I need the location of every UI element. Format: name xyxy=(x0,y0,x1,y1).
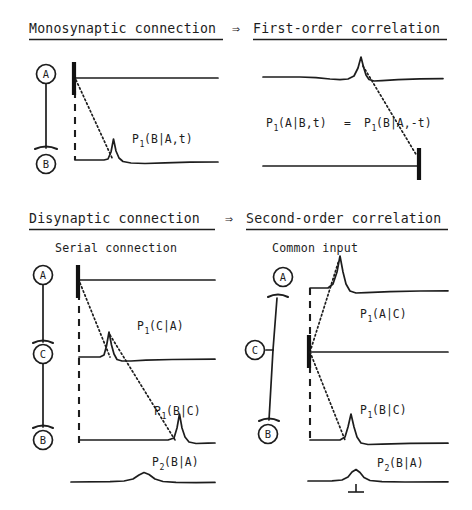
label-p1-c-given-a: P 1 (C|A) xyxy=(137,319,184,336)
circuit-common-input: A C B xyxy=(246,268,293,444)
trace-response-a-right xyxy=(263,57,443,81)
neuron-label-b-serial: B xyxy=(40,434,46,446)
projection-dotted-6 xyxy=(310,352,345,440)
equation-rhs-base: P xyxy=(364,116,371,130)
trace-response-b-common xyxy=(310,414,448,445)
projection-dotted-1 xyxy=(76,80,113,160)
diagram-canvas: Monosynaptic connection ⇒ First-order co… xyxy=(0,0,472,510)
neuron-label-c-common: C xyxy=(252,344,258,356)
trace-second-order-serial xyxy=(71,473,215,483)
neuron-label-a-serial: A xyxy=(40,269,47,281)
axon-c-to-b xyxy=(269,350,273,420)
label-p2-b-given-a-serial-rest: (B|A) xyxy=(164,455,199,469)
subtitle-common-input: Common input xyxy=(272,241,358,255)
label-p1-b-given-c-base: P xyxy=(154,404,161,418)
label-p2-b-given-a-common-rest: (B|A) xyxy=(389,456,424,470)
label-p1-c-given-a-rest: (C|A) xyxy=(149,319,184,333)
trace-second-order-common xyxy=(308,470,448,483)
neuron-label-b-common: B xyxy=(265,428,271,440)
label-p1-a-given-c-rest: (A|C) xyxy=(372,307,407,321)
equation-lhs-base: P xyxy=(266,116,273,130)
axon-c-to-a xyxy=(273,298,277,350)
label-p2-b-given-a-common-base: P xyxy=(377,456,384,470)
projection-dotted-3 xyxy=(80,283,110,357)
header-second-order: Second-order correlation xyxy=(246,211,441,226)
label-p2-b-given-a-serial-base: P xyxy=(152,455,159,469)
projection-dotted-4 xyxy=(110,335,175,440)
label-p1-a-given-c-base: P xyxy=(360,307,367,321)
header-first-order: First-order correlation xyxy=(253,21,440,36)
neuron-label-b: B xyxy=(43,158,49,170)
neuron-label-a: A xyxy=(43,68,50,80)
label-p1-b-given-a-t: P 1 (B|A,t) xyxy=(132,132,193,149)
arrow-implies-2: ⇒ xyxy=(225,211,233,226)
label-p2-b-given-a-common: P 2 (B|A) xyxy=(377,456,424,473)
section-disynaptic-header: Disynaptic connection ⇒ Second-order cor… xyxy=(29,211,448,230)
neuron-label-a-common: A xyxy=(280,271,287,283)
label-p1-a-given-c: P 1 (A|C) xyxy=(360,307,407,324)
neuron-label-c-serial: C xyxy=(40,348,46,360)
projection-dotted-5 xyxy=(310,260,339,352)
subtitle-serial-connection: Serial connection xyxy=(55,241,177,255)
label-p1-b-given-c-common-rest: (B|C) xyxy=(372,403,407,417)
panel-mono-left-traces: P 1 (B|A,t) xyxy=(74,62,218,164)
header-monosynaptic: Monosynaptic connection xyxy=(29,21,216,36)
equation-operator: = xyxy=(344,116,351,130)
label-p2-b-given-a-serial: P 2 (B|A) xyxy=(152,455,199,472)
trace-response-c xyxy=(79,332,215,361)
synapse-c-to-a-icon xyxy=(268,295,288,298)
header-disynaptic: Disynaptic connection xyxy=(29,211,200,226)
zero-tick-mark xyxy=(348,484,364,492)
label-p1-c-given-a-base: P xyxy=(137,319,144,333)
panel-serial-traces: P 1 (C|A) P 1 (B|C) P 2 (B|A) xyxy=(71,265,215,483)
label-p1-b-given-a-t-rest: (B|A,t) xyxy=(144,132,193,146)
equation-rhs-rest: (B|A,-t) xyxy=(376,116,432,130)
label-p1-b-given-c: P 1 (B|C) xyxy=(154,404,201,421)
arrow-implies-1: ⇒ xyxy=(232,21,240,36)
label-p1-b-given-c-common: P 1 (B|C) xyxy=(360,403,407,420)
equation-lhs-rest: (A|B,t) xyxy=(278,116,327,130)
panel-common-input-traces: P 1 (A|C) P 1 (B|C) P 2 (B|A) xyxy=(308,256,448,492)
trace-response-b-serial xyxy=(79,414,215,444)
label-p1-b-given-c-common-base: P xyxy=(360,403,367,417)
panel-mono-right-traces: P 1 (A|B,t) = P 1 (B|A,-t) xyxy=(263,57,443,180)
equation-first-order-symmetry: P 1 (A|B,t) = P 1 (B|A,-t) xyxy=(266,116,432,133)
label-p1-b-given-a-t-base: P xyxy=(132,132,139,146)
circuit-serial-connection: A C B xyxy=(33,266,53,450)
label-p1-b-given-c-rest: (B|C) xyxy=(166,404,201,418)
circuit-monosynaptic: A B xyxy=(35,65,57,174)
section-monosynaptic-header: Monosynaptic connection ⇒ First-order co… xyxy=(29,21,447,40)
figure-root: Monosynaptic connection ⇒ First-order co… xyxy=(0,0,472,510)
